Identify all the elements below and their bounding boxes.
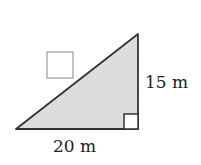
right-triangle [16, 34, 138, 129]
base-label: 20 m [53, 136, 96, 156]
answer-box[interactable] [47, 52, 73, 78]
right-angle-marker [124, 114, 138, 129]
height-label: 15 m [145, 72, 188, 92]
